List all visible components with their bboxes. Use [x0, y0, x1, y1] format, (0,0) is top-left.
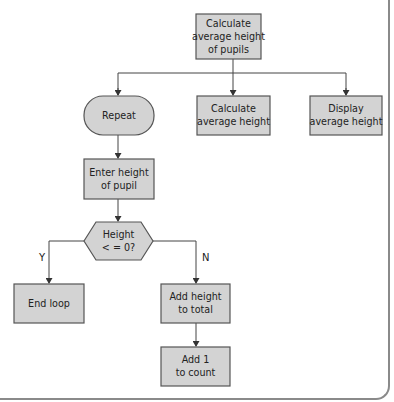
- svg-text:Calculate: Calculate: [211, 103, 256, 114]
- edge-root-branches: [118, 73, 346, 95]
- svg-text:< = 0?: < = 0?: [102, 242, 135, 253]
- flowchart: Calculate average height of pupils Repea…: [0, 0, 394, 402]
- svg-text:of pupil: of pupil: [101, 180, 137, 191]
- node-display-average-height: Display average height: [310, 96, 383, 135]
- edge-decision-yes: [49, 241, 84, 283]
- node-end-loop: End loop: [14, 284, 84, 323]
- node-add-1-to-count: Add 1 to count: [161, 347, 230, 386]
- svg-text:Add height: Add height: [169, 291, 221, 302]
- node-calculate-average-height-of-pupils: Calculate average height of pupils: [192, 14, 265, 59]
- svg-text:Repeat: Repeat: [102, 110, 136, 121]
- svg-text:Add 1: Add 1: [182, 354, 210, 365]
- svg-text:average height: average height: [310, 116, 383, 127]
- svg-text:to count: to count: [176, 367, 216, 378]
- node-add-height-to-total: Add height to total: [161, 284, 230, 323]
- svg-text:Display: Display: [328, 103, 364, 114]
- label-yes: Y: [38, 252, 46, 263]
- edge-decision-no: [153, 241, 196, 283]
- node-repeat: Repeat: [84, 96, 154, 135]
- svg-text:End loop: End loop: [28, 298, 70, 309]
- svg-text:average height: average height: [197, 116, 270, 127]
- node-decision-height: Height < = 0?: [84, 222, 153, 260]
- label-no: N: [202, 252, 209, 263]
- node-calculate-average-height: Calculate average height: [197, 96, 270, 135]
- svg-text:Height: Height: [103, 229, 135, 240]
- svg-text:to total: to total: [178, 304, 213, 315]
- svg-text:Calculate: Calculate: [206, 18, 251, 29]
- svg-text:average height: average height: [192, 31, 265, 42]
- node-enter-height-of-pupil: Enter height of pupil: [84, 159, 154, 199]
- svg-text:Enter height: Enter height: [89, 167, 149, 178]
- svg-text:of pupils: of pupils: [208, 44, 249, 55]
